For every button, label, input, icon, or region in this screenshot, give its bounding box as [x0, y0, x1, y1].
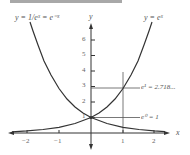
x-tick-label: −1 — [54, 138, 61, 145]
x-tick-label: 1 — [121, 138, 125, 145]
y-axis-top-arrow-icon — [89, 23, 93, 29]
y-axis-label: y — [89, 13, 93, 21]
x-tick-label: −2 — [22, 138, 29, 145]
y-axis-bottom-arrow-icon — [89, 144, 93, 150]
y-tick-label: 2 — [82, 98, 86, 105]
y-tick-label: 3 — [82, 82, 86, 89]
exponential-graph — [0, 0, 190, 155]
y-tick-label: 5 — [82, 51, 86, 58]
left-curve-label: y = 1/eˣ = e⁻ˣ — [15, 14, 59, 22]
y-tick-label: 6 — [82, 36, 86, 43]
x-axis-label: x — [176, 129, 180, 137]
x-tick-label: 2 — [152, 138, 156, 145]
annotation-e0: e⁰ = 1 — [141, 114, 159, 121]
y-tick-label: 1 — [82, 113, 86, 120]
y-ticks — [91, 40, 95, 118]
right-curve-label: y = eˣ — [144, 14, 163, 22]
intersection-point — [89, 116, 92, 119]
y-tick-label: 4 — [82, 67, 86, 74]
annotation-e1: e¹ = 2.718... — [141, 84, 175, 91]
